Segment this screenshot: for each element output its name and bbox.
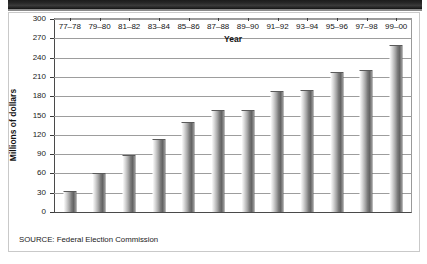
bar-slot	[114, 19, 144, 212]
x-tick-mark	[100, 18, 101, 21]
x-tick-label: 93–94	[296, 22, 318, 31]
bar	[241, 110, 254, 212]
y-tick-mark	[50, 58, 54, 59]
chart-figure: Millions of dollars 03060901201501802102…	[8, 12, 420, 252]
x-tick-mark	[70, 18, 71, 21]
x-tick-label: 89–90	[237, 22, 259, 31]
bar-slot	[85, 19, 115, 212]
bar-slot	[174, 19, 204, 212]
bar-slot	[292, 19, 322, 212]
bar-slot	[144, 19, 174, 212]
bar-slot	[203, 19, 233, 212]
y-tick-mark	[50, 135, 54, 136]
bar	[93, 173, 106, 212]
y-tick-label: 240	[24, 54, 46, 62]
bar	[63, 191, 76, 212]
y-tick-label: 150	[24, 112, 46, 120]
bar-slot	[55, 19, 85, 212]
bar-slot	[381, 19, 411, 212]
x-tick-mark	[337, 18, 338, 21]
x-tick-label: 79–80	[88, 22, 110, 31]
y-tick-mark	[50, 173, 54, 174]
x-tick-mark	[307, 18, 308, 21]
y-tick-mark	[50, 77, 54, 78]
title-band-underline	[8, 9, 422, 11]
y-tick-label: 60	[24, 169, 46, 177]
x-tick-label: 91–92	[266, 22, 288, 31]
bar	[152, 139, 165, 212]
y-tick-label: 30	[24, 189, 46, 197]
bar	[360, 70, 373, 212]
x-tick-label: 77–78	[59, 22, 81, 31]
bar-series	[55, 19, 411, 212]
plot-area: 0306090120150180210240270300 77–7879–808…	[54, 18, 412, 213]
bar	[390, 45, 403, 212]
bar	[182, 122, 195, 212]
y-tick-label: 120	[24, 131, 46, 139]
x-tick-mark	[218, 18, 219, 21]
x-tick-label: 87–88	[207, 22, 229, 31]
bar	[330, 72, 343, 212]
y-tick-label: 270	[24, 34, 46, 42]
x-tick-mark	[129, 18, 130, 21]
x-tick-mark	[396, 18, 397, 21]
bar-slot	[322, 19, 352, 212]
y-tick-mark	[50, 116, 54, 117]
bar-slot	[352, 19, 382, 212]
x-tick-label: 99–00	[385, 22, 407, 31]
y-tick-mark	[50, 154, 54, 155]
title-band	[8, 0, 422, 9]
x-tick-label: 81–82	[118, 22, 140, 31]
x-tick-mark	[367, 18, 368, 21]
x-tick-mark	[278, 18, 279, 21]
y-tick-mark	[50, 19, 54, 20]
y-tick-label: 300	[24, 15, 46, 23]
x-tick-mark	[248, 18, 249, 21]
x-tick-label: 85–86	[177, 22, 199, 31]
y-tick-label: 180	[24, 92, 46, 100]
x-tick-mark	[159, 18, 160, 21]
y-tick-mark	[50, 96, 54, 97]
x-tick-mark	[189, 18, 190, 21]
y-tick-mark	[50, 193, 54, 194]
bar	[123, 155, 136, 212]
x-tick-label: 95–96	[326, 22, 348, 31]
x-axis-title: Year	[54, 34, 412, 44]
chart-page: Millions of dollars 03060901201501802102…	[0, 0, 427, 264]
bar	[301, 90, 314, 212]
source-note: SOURCE: Federal Election Commission	[19, 235, 158, 244]
x-tick-label: 97–98	[355, 22, 377, 31]
bar-slot	[263, 19, 293, 212]
bar-slot	[233, 19, 263, 212]
bar	[212, 110, 225, 212]
y-tick-mark	[50, 212, 54, 213]
y-tick-label: 0	[24, 208, 46, 216]
bar	[271, 91, 284, 212]
y-tick-label: 210	[24, 73, 46, 81]
y-axis-title: Millions of dollars	[8, 81, 18, 169]
y-tick-label: 90	[24, 150, 46, 158]
x-tick-label: 83–84	[148, 22, 170, 31]
